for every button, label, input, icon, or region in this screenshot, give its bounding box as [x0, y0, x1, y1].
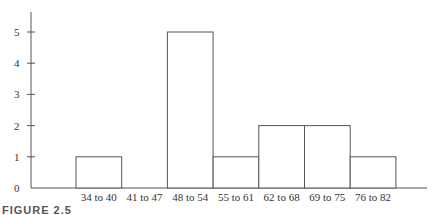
figure-caption: FIGURE 2.5 — [2, 204, 72, 215]
histogram-bar — [76, 157, 122, 188]
x-category-label: 62 to 68 — [264, 191, 301, 203]
x-category-label: 48 to 54 — [172, 191, 209, 203]
y-tick-label: 2 — [14, 120, 20, 132]
x-category-label: 76 to 82 — [355, 191, 391, 203]
y-tick-label: 1 — [14, 151, 20, 163]
x-category-label: 55 to 61 — [218, 191, 254, 203]
histogram-chart: 01234534 to 4041 to 4748 to 5455 to 6162… — [0, 0, 433, 215]
x-category-label: 69 to 75 — [309, 191, 346, 203]
y-tick-label: 0 — [14, 182, 20, 194]
histogram-bar — [305, 126, 351, 188]
histogram-bar — [213, 157, 259, 188]
histogram-bar — [167, 32, 213, 188]
y-tick-label: 5 — [14, 26, 20, 38]
bars — [76, 32, 396, 188]
histogram-bar — [350, 157, 396, 188]
x-category-label: 41 to 47 — [127, 191, 164, 203]
x-category-label: 34 to 40 — [81, 191, 118, 203]
y-tick-label: 3 — [14, 88, 20, 100]
histogram-bar — [259, 126, 305, 188]
y-tick-label: 4 — [14, 57, 20, 69]
